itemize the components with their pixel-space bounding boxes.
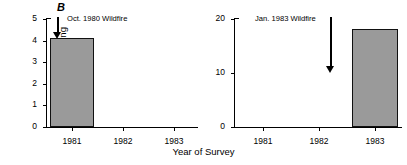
x-tick-1982-right: 1982 xyxy=(319,127,320,131)
y-axis-top-cap-right xyxy=(234,18,239,19)
y-tick-4: 4 xyxy=(43,41,47,42)
x-tick-1981: 1981 xyxy=(72,127,73,131)
y-tick-label-10-right: 10 xyxy=(216,67,225,78)
y-tick-label-4: 4 xyxy=(32,35,37,46)
x-tick-1981-right: 1981 xyxy=(263,127,264,131)
chart-panel-b: B Oct. 1980 Wildfire % of Plants Floweri… xyxy=(0,0,204,145)
y-tick-label-1: 1 xyxy=(32,99,37,110)
y-tick-label-0-right: 0 xyxy=(220,121,225,132)
bar-1981 xyxy=(50,38,94,127)
y-tick-2: 2 xyxy=(43,84,47,85)
bar-1983-right xyxy=(352,29,398,127)
y-axis-top-cap xyxy=(46,18,51,19)
x-axis-label: Year of Survey xyxy=(0,146,407,158)
x-tick-1983: 1983 xyxy=(174,127,175,131)
figure-root: B Oct. 1980 Wildfire % of Plants Floweri… xyxy=(0,0,407,165)
y-tick-0: 0 xyxy=(43,127,47,128)
y-tick-5: 5 xyxy=(43,19,47,20)
y-tick-label-3: 3 xyxy=(32,56,37,67)
plot-area-b: % of Plants Flowering 0 1 2 3 4 5 xyxy=(46,19,198,128)
y-tick-20-right: 20 xyxy=(231,19,235,20)
chart-panel-right: Jan. 1983 Wildfire 0 10 20 1981 1982 xyxy=(203,0,407,145)
y-tick-label-2: 2 xyxy=(32,78,37,89)
y-tick-3: 3 xyxy=(43,62,47,63)
plot-area-right: 0 10 20 1981 1982 1983 xyxy=(234,19,402,128)
y-tick-0-right: 0 xyxy=(231,127,235,128)
y-tick-label-5: 5 xyxy=(32,13,37,24)
x-tick-1982: 1982 xyxy=(123,127,124,131)
y-tick-label-0: 0 xyxy=(32,121,37,132)
y-tick-1: 1 xyxy=(43,105,47,106)
y-tick-10-right: 10 xyxy=(231,73,235,74)
y-tick-label-20-right: 20 xyxy=(216,13,225,24)
x-tick-1983-right: 1983 xyxy=(375,127,376,131)
